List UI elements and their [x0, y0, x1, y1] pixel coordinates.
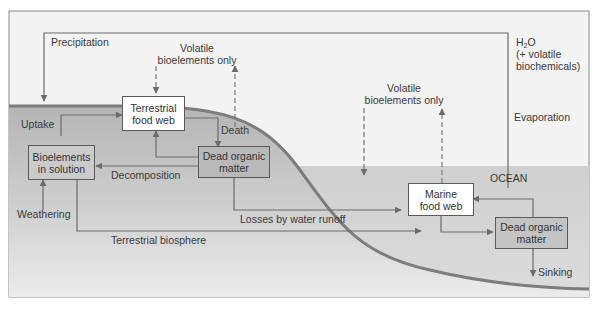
sinking-label: Sinking	[538, 266, 572, 278]
terrestrial-food-web-box: Terrestrial food web	[122, 96, 185, 131]
dead-organic-ocean-line2: matter	[496, 233, 567, 245]
bioelements-line1: Bioelements	[29, 151, 94, 163]
bioelements-in-solution-box: Bioelements in solution	[28, 145, 95, 180]
volatile-land-line1: Volatile	[150, 42, 244, 54]
h2o-line2: (+ volatile	[516, 48, 580, 60]
volatile-land-label: Volatile bioelements only	[150, 42, 244, 66]
terrestrial-biosphere-label: Terrestrial biosphere	[111, 234, 206, 246]
decomposition-label: Decomposition	[111, 169, 180, 181]
death-label: Death	[221, 124, 249, 136]
terrestrial-food-web-line2: food web	[123, 114, 184, 126]
dead-organic-matter-land-box: Dead organic matter	[198, 146, 270, 178]
h2o-line1: H2O	[516, 36, 580, 48]
volatile-ocean-line2: bioelements only	[357, 94, 451, 106]
h2o-suffix: O	[528, 36, 536, 48]
h2o-prefix: H	[516, 36, 524, 48]
marine-food-web-line2: food web	[409, 200, 473, 212]
volatile-ocean-line1: Volatile	[357, 82, 451, 94]
evaporation-label: Evaporation	[514, 111, 570, 123]
volatile-ocean-label: Volatile bioelements only	[357, 82, 451, 106]
h2o-line3: biochemicals)	[516, 60, 580, 72]
precipitation-label: Precipitation	[51, 36, 109, 48]
dead-organic-ocean-line1: Dead organic	[496, 221, 567, 233]
weathering-label: Weathering	[17, 208, 71, 220]
marine-food-web-box: Marine food web	[408, 183, 474, 216]
uptake-label: Uptake	[21, 118, 54, 130]
h2o-label: H2O (+ volatile biochemicals)	[516, 36, 580, 72]
terrestrial-food-web-line1: Terrestrial	[123, 102, 184, 114]
bioelements-line2: in solution	[29, 163, 94, 175]
losses-by-water-runoff-label: Losses by water runoff	[240, 213, 345, 225]
marine-food-web-line1: Marine	[409, 188, 473, 200]
dead-organic-matter-ocean-box: Dead organic matter	[495, 217, 568, 249]
ocean-label: OCEAN	[490, 172, 527, 184]
dead-organic-land-line2: matter	[199, 162, 269, 174]
dead-organic-land-line1: Dead organic	[199, 150, 269, 162]
volatile-land-line2: bioelements only	[150, 54, 244, 66]
